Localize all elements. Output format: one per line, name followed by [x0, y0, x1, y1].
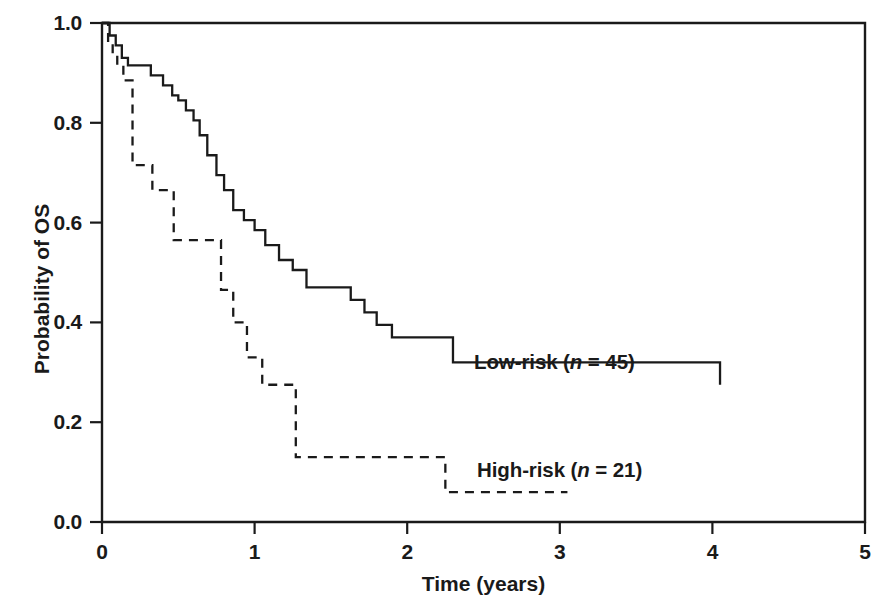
y-tick-label: 0.8: [0, 111, 82, 135]
y-tick-marks: [90, 23, 102, 522]
y-tick-label: 0.2: [0, 410, 82, 434]
series-label-low-risk: Low-risk (n = 45): [474, 350, 635, 374]
series-label-high-risk: High-risk (n = 21): [477, 458, 642, 482]
y-tick-label: 1.0: [0, 11, 82, 35]
axis-frame: [102, 23, 865, 522]
x-tick-label: 1: [249, 540, 260, 564]
italic-n: n: [577, 458, 589, 481]
italic-n: n: [570, 350, 582, 373]
kaplan-meier-figure: 0.00.20.40.60.81.0 012345 Probability of…: [0, 0, 885, 613]
x-tick-label: 3: [554, 540, 565, 564]
y-axis-title: Probability of OS: [30, 179, 54, 399]
x-tick-marks: [102, 522, 865, 534]
x-axis-title: Time (years): [102, 572, 865, 596]
x-tick-label: 5: [859, 540, 870, 564]
series-line-low-risk: [102, 23, 720, 385]
x-tick-label: 0: [96, 540, 107, 564]
y-tick-label: 0.0: [0, 510, 82, 534]
plot-border: [102, 23, 865, 522]
x-tick-label: 2: [401, 540, 412, 564]
plot-canvas: [0, 0, 885, 613]
x-tick-label: 4: [707, 540, 718, 564]
